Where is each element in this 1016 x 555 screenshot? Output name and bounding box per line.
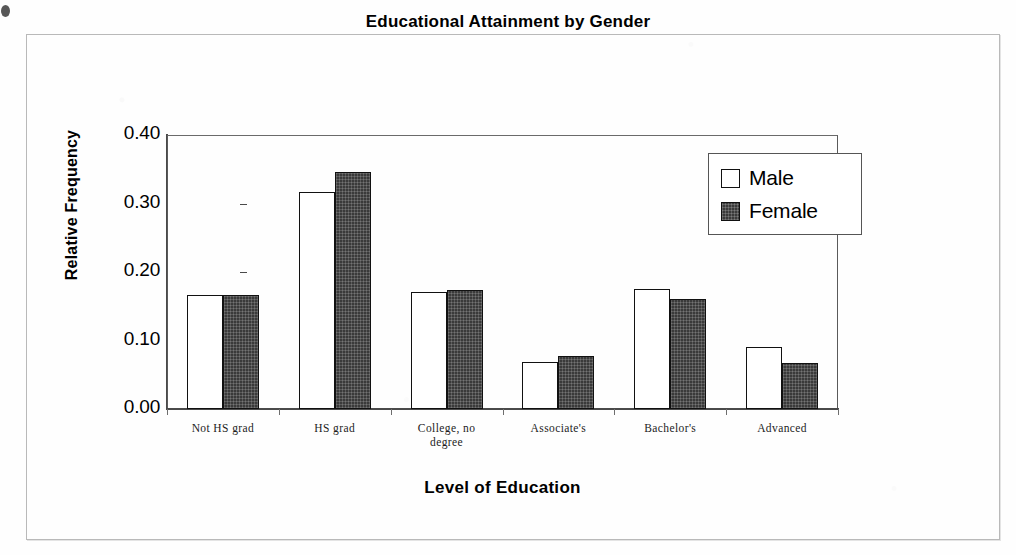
bar-group [167, 135, 279, 409]
x-axis-tick-mark [838, 409, 839, 415]
bar-male[interactable] [299, 192, 335, 409]
x-axis-tick-mark [726, 409, 727, 415]
y-axis-tick-label: 0.30 [90, 191, 160, 213]
legend-label-male: Male [749, 166, 794, 190]
bar-male[interactable] [187, 295, 223, 409]
x-axis-category-label: Advanced [726, 417, 838, 473]
x-axis-tick-mark [614, 409, 615, 415]
legend-label-female: Female [749, 199, 818, 223]
x-axis-category-labels: Not HS gradHS gradCollege, nodegreeAssoc… [167, 417, 838, 473]
legend-item-male[interactable]: Male [721, 166, 851, 190]
y-axis-title: Relative Frequency [63, 95, 81, 315]
bar-male[interactable] [746, 347, 782, 409]
x-axis-category-label: Not HS grad [167, 417, 279, 473]
bar-female[interactable] [558, 356, 594, 409]
bar-female[interactable] [447, 290, 483, 409]
bar-female[interactable] [335, 172, 371, 409]
chart-legend[interactable]: Male Female [708, 153, 862, 235]
y-axis-tick-label: 0.40 [90, 122, 160, 144]
bar-group [279, 135, 391, 409]
y-axis-tick-label: 0.20 [90, 259, 160, 281]
bar-male[interactable] [411, 292, 447, 409]
bar-male[interactable] [522, 362, 558, 409]
x-axis-category-label: College, nodegree [391, 417, 503, 473]
bar-group [391, 135, 503, 409]
bar-male[interactable] [634, 289, 670, 409]
filled-square-icon [721, 202, 740, 221]
x-axis-tick-mark [279, 409, 280, 415]
x-axis-title: Level of Education [167, 478, 838, 498]
x-axis-tick-mark [391, 409, 392, 415]
y-axis-tick-label: 0.00 [90, 396, 160, 418]
y-axis-tick-label: 0.10 [90, 328, 160, 350]
white-square-icon [721, 169, 740, 188]
bar-group [502, 135, 614, 409]
y-axis-tick-labels: 0.400.300.200.100.00 [80, 0, 160, 555]
x-axis-category-label: Bachelor's [614, 417, 726, 473]
bar-female[interactable] [223, 295, 259, 409]
bar-female[interactable] [670, 299, 706, 409]
legend-item-female[interactable]: Female [721, 199, 851, 223]
x-axis-tick-mark [503, 409, 504, 415]
x-axis-tick-mark [167, 409, 168, 415]
x-axis-category-label: Associate's [502, 417, 614, 473]
bar-female[interactable] [782, 363, 818, 409]
x-axis-category-label: HS grad [279, 417, 391, 473]
